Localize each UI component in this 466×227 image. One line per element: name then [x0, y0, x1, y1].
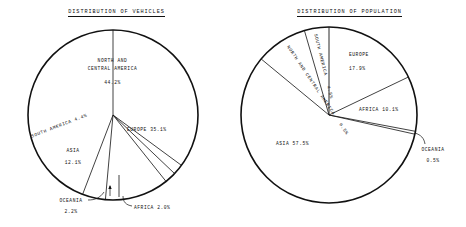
callout-oceania-value-vehicles: 2.2%	[50, 208, 92, 216]
chart-distribution-of-population: DISTRIBUTION OF POPULATION SOUTH AMERICA	[233, 0, 466, 227]
slice-label-europe-name-population: EUROPE	[349, 51, 369, 59]
figure-canvas: DISTRIBUTION OF VEHICLES	[0, 0, 466, 227]
slice-label-north-central-america-vehicles: NORTH AND CENTRAL AMERICA 44.2%	[60, 57, 165, 87]
pie-vehicles-graphic	[0, 0, 233, 227]
slice-label-europe-vehicles: EUROPE 35.1%	[127, 126, 167, 134]
slice-label-europe-population: EUROPE 17.9%	[349, 51, 369, 73]
slice-label-asia-population: ASIA 57.5%	[276, 140, 309, 148]
leader-line-oceania-population	[415, 133, 425, 144]
pie-population-graphic	[233, 0, 466, 227]
slice-value-nca-vehicles: 44.2%	[60, 79, 165, 87]
slice-value-asia-vehicles: 12.1%	[55, 159, 91, 167]
slice-label-africa-population: AFRICA 10.1%	[359, 106, 399, 114]
callout-label-africa-vehicles: AFRICA 2.0%	[134, 204, 170, 212]
callout-oceania-name-vehicles: OCEANIA	[50, 197, 92, 205]
arrowhead-oceania-vehicles	[108, 185, 111, 189]
pie-vehicles-divider-africa-oceania	[113, 115, 175, 174]
callout-label-oceania-vehicles: OCEANIA 2.2%	[50, 197, 92, 216]
callout-oceania-value-population: 0.5%	[412, 157, 454, 165]
slice-label-nca-line1: NORTH AND	[60, 57, 165, 65]
slice-value-europe-population: 17.9%	[349, 65, 369, 73]
callout-oceania-name-population: OCEANIA	[412, 146, 454, 154]
slice-label-asia-vehicles: ASIA 12.1%	[55, 147, 91, 167]
chart-distribution-of-vehicles: DISTRIBUTION OF VEHICLES	[0, 0, 233, 227]
slice-label-nca-line2: CENTRAL AMERICA	[60, 65, 165, 73]
slice-label-asia-name-vehicles: ASIA	[55, 147, 91, 155]
callout-label-oceania-population: OCEANIA 0.5%	[412, 146, 454, 165]
